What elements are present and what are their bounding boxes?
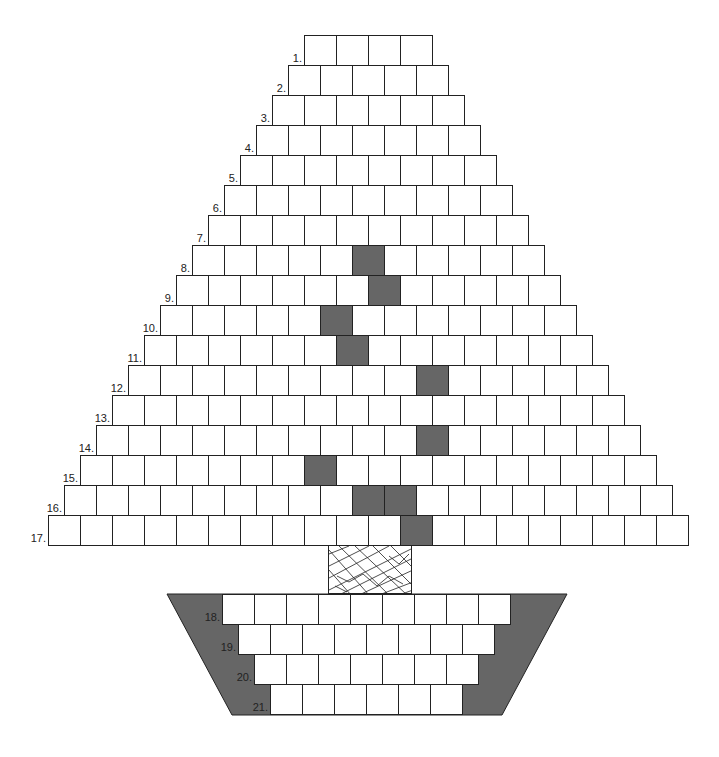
answer-cell[interactable] [448,185,481,216]
answer-cell[interactable] [272,95,305,126]
answer-cell[interactable] [288,245,321,276]
answer-cell[interactable] [304,395,337,426]
answer-cell[interactable] [112,455,145,486]
answer-cell[interactable] [398,684,431,715]
answer-cell[interactable] [608,485,641,516]
answer-cell[interactable] [286,594,319,625]
answer-cell[interactable] [366,624,399,655]
answer-cell[interactable] [400,155,433,186]
answer-cell[interactable] [176,275,209,306]
answer-cell[interactable] [592,455,625,486]
answer-cell[interactable] [496,335,529,366]
answer-cell[interactable] [192,485,225,516]
answer-cell[interactable] [624,455,657,486]
answer-cell[interactable] [302,684,335,715]
answer-cell[interactable] [128,365,161,396]
answer-cell[interactable] [320,65,353,96]
answer-cell[interactable] [272,395,305,426]
answer-cell[interactable] [224,365,257,396]
answer-cell[interactable] [544,425,577,456]
answer-cell[interactable] [240,455,273,486]
answer-cell[interactable] [160,365,193,396]
answer-cell[interactable] [464,335,497,366]
answer-cell[interactable] [400,335,433,366]
answer-cell[interactable] [192,305,225,336]
answer-cell[interactable] [352,65,385,96]
answer-cell[interactable] [256,485,289,516]
answer-cell[interactable] [320,485,353,516]
answer-cell[interactable] [144,455,177,486]
answer-cell[interactable] [446,654,479,685]
answer-cell[interactable] [304,275,337,306]
answer-cell[interactable] [576,365,609,396]
answer-cell[interactable] [286,654,319,685]
answer-cell[interactable] [208,215,241,246]
answer-cell[interactable] [238,624,271,655]
answer-cell[interactable] [656,515,689,546]
answer-cell[interactable] [350,594,383,625]
answer-cell[interactable] [334,684,367,715]
answer-cell[interactable] [496,395,529,426]
answer-cell[interactable] [400,455,433,486]
answer-cell[interactable] [416,125,449,156]
answer-cell[interactable] [398,624,431,655]
answer-cell[interactable] [336,515,369,546]
answer-cell[interactable] [144,395,177,426]
answer-cell[interactable] [400,35,433,66]
answer-cell[interactable] [160,305,193,336]
answer-cell[interactable] [462,624,495,655]
answer-cell[interactable] [480,485,513,516]
answer-cell[interactable] [432,335,465,366]
answer-cell[interactable] [368,515,401,546]
answer-cell[interactable] [304,515,337,546]
answer-cell[interactable] [544,365,577,396]
answer-cell[interactable] [448,365,481,396]
answer-cell[interactable] [496,515,529,546]
answer-cell[interactable] [592,395,625,426]
answer-cell[interactable] [208,455,241,486]
answer-cell[interactable] [352,305,385,336]
answer-cell[interactable] [320,185,353,216]
answer-cell[interactable] [176,515,209,546]
answer-cell[interactable] [384,185,417,216]
answer-cell[interactable] [224,245,257,276]
answer-cell[interactable] [256,245,289,276]
answer-cell[interactable] [240,155,273,186]
answer-cell[interactable] [416,305,449,336]
answer-cell[interactable] [302,624,335,655]
answer-cell[interactable] [350,654,383,685]
answer-cell[interactable] [96,425,129,456]
answer-cell[interactable] [208,515,241,546]
answer-cell[interactable] [256,425,289,456]
answer-cell[interactable] [144,515,177,546]
answer-cell[interactable] [512,425,545,456]
answer-cell[interactable] [352,365,385,396]
answer-cell[interactable] [608,425,641,456]
answer-cell[interactable] [128,425,161,456]
answer-cell[interactable] [560,395,593,426]
answer-cell[interactable] [64,485,97,516]
answer-cell[interactable] [320,425,353,456]
answer-cell[interactable] [270,624,303,655]
answer-cell[interactable] [240,275,273,306]
answer-cell[interactable] [112,395,145,426]
answer-cell[interactable] [272,335,305,366]
answer-cell[interactable] [432,395,465,426]
answer-cell[interactable] [48,515,81,546]
answer-cell[interactable] [224,425,257,456]
answer-cell[interactable] [400,395,433,426]
answer-cell[interactable] [272,515,305,546]
answer-cell[interactable] [336,155,369,186]
answer-cell[interactable] [256,365,289,396]
answer-cell[interactable] [304,335,337,366]
answer-cell[interactable] [448,125,481,156]
answer-cell[interactable] [432,95,465,126]
answer-cell[interactable] [336,95,369,126]
answer-cell[interactable] [432,455,465,486]
answer-cell[interactable] [528,335,561,366]
answer-cell[interactable] [240,335,273,366]
answer-cell[interactable] [336,275,369,306]
answer-cell[interactable] [352,425,385,456]
answer-cell[interactable] [432,275,465,306]
answer-cell[interactable] [512,245,545,276]
